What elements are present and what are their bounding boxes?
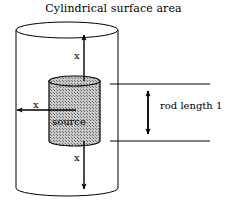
inner-cylinder-source — [49, 76, 100, 146]
label-rod-length: rod length 1 — [160, 100, 222, 111]
label-x-bottom: x — [74, 152, 80, 163]
label-x-top: x — [74, 50, 80, 61]
label-source: source — [52, 116, 86, 127]
label-x-left: x — [33, 99, 39, 110]
cylindrical-surface-area-diagram: Cylindrical surface area — [0, 0, 227, 208]
inner-cylinder-top-ellipse — [49, 76, 100, 86]
inner-cylinder-body — [49, 81, 100, 146]
rod-length-dimension — [110, 84, 210, 141]
